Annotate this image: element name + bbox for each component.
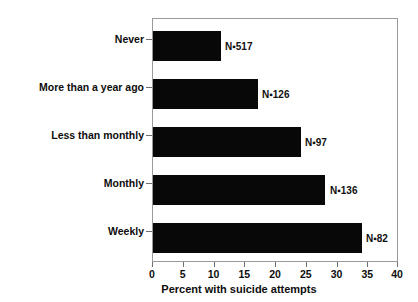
x-tick-5 — [183, 262, 184, 267]
x-tick-label-35: 35 — [361, 268, 373, 280]
bar-more-than-a-year-ago — [153, 79, 258, 109]
category-label-monthly: Monthly — [0, 177, 144, 189]
x-axis-title-container: Percent with suicide attempts — [0, 283, 418, 295]
x-tick-30 — [337, 262, 338, 267]
x-tick-15 — [244, 262, 245, 267]
x-axis-title: Percent with suicide attempts — [161, 283, 316, 295]
x-tick-25 — [306, 262, 307, 267]
x-tick-label-25: 25 — [300, 268, 312, 280]
bar-less-than-monthly — [153, 127, 301, 157]
category-label-never: Never — [0, 33, 144, 45]
x-tick-40 — [397, 262, 398, 267]
bar-chart: Never More than a year ago Less than mon… — [0, 0, 418, 302]
bar-never — [153, 31, 221, 61]
x-tick-label-40: 40 — [391, 268, 403, 280]
x-tick-label-20: 20 — [269, 268, 281, 280]
category-label-more-than-a-year-ago: More than a year ago — [0, 81, 144, 93]
x-tick-20 — [275, 262, 276, 267]
category-label-weekly: Weekly — [0, 225, 144, 237]
category-label-less-than-monthly: Less than monthly — [0, 129, 144, 141]
plot-area: N▪517 N▪126 N▪97 N▪136 N▪82 — [152, 18, 398, 262]
x-tick-label-10: 10 — [208, 268, 220, 280]
bar-annotation-weekly: N▪82 — [366, 233, 388, 244]
x-tick-label-15: 15 — [238, 268, 250, 280]
x-tick-label-5: 5 — [180, 268, 186, 280]
x-tick-0 — [152, 262, 153, 267]
bar-annotation-monthly: N▪136 — [330, 185, 357, 196]
x-tick-label-0: 0 — [149, 268, 155, 280]
x-tick-10 — [214, 262, 215, 267]
bar-weekly — [153, 223, 362, 253]
bar-monthly — [153, 175, 325, 205]
x-tick-label-30: 30 — [331, 268, 343, 280]
bar-annotation-more-than-a-year-ago: N▪126 — [262, 89, 289, 100]
bar-annotation-never: N▪517 — [225, 41, 252, 52]
x-tick-35 — [367, 262, 368, 267]
bar-annotation-less-than-monthly: N▪97 — [305, 137, 327, 148]
